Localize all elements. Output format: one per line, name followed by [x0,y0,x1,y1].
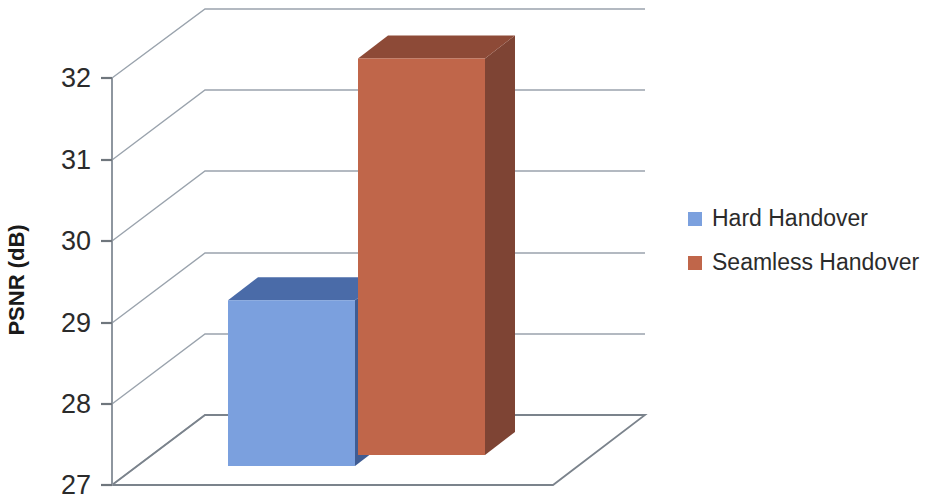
legend: Hard Handover Seamless Handover [688,205,919,275]
bar-hard-handover-front [228,300,355,466]
psnr-3d-bar-chart: 32 31 30 29 28 27 PSNR (dB) Hard Handove… [0,0,940,502]
legend-item-seamless-handover[interactable]: Seamless Handover [688,249,919,275]
y-axis-ticks [101,78,112,485]
legend-swatch-seamless-handover [688,256,702,270]
y-tick-label-31: 31 [61,145,91,175]
legend-swatch-hard-handover [688,212,702,226]
legend-label-hard-handover: Hard Handover [712,205,868,231]
bar-seamless-handover [358,35,515,455]
bar-seamless-handover-side [485,35,515,455]
y-axis-title: PSNR (dB) [4,224,29,335]
y-tick-label-32: 32 [61,63,91,93]
legend-item-hard-handover[interactable]: Hard Handover [688,205,868,231]
chart-container: 32 31 30 29 28 27 PSNR (dB) Hard Handove… [0,0,940,502]
y-tick-label-28: 28 [61,389,91,419]
legend-label-seamless-handover: Seamless Handover [712,249,919,275]
bar-seamless-handover-front [358,58,485,455]
y-tick-label-30: 30 [61,226,91,256]
y-tick-label-29: 29 [61,308,91,338]
y-tick-label-27: 27 [61,470,91,500]
y-axis-tick-labels: 32 31 30 29 28 27 [61,63,91,500]
